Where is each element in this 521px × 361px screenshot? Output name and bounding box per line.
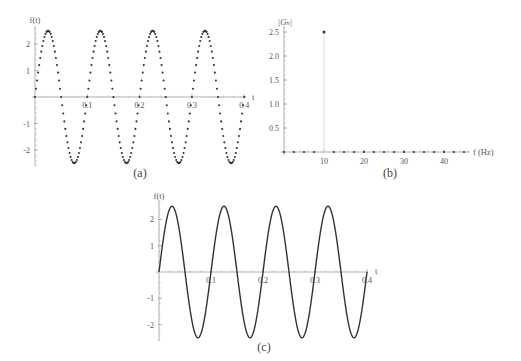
panel-caption: (b) <box>383 166 397 180</box>
y-tick-label: 1.0 <box>269 100 279 109</box>
sample-point <box>78 152 80 154</box>
sample-point <box>106 51 108 53</box>
sample-point <box>138 104 140 106</box>
sample-point <box>145 51 147 53</box>
sample-point <box>147 40 149 42</box>
sample-point <box>193 79 195 81</box>
sample-point <box>221 128 223 130</box>
sample-point <box>120 147 122 149</box>
sample-point <box>174 156 176 158</box>
sample-point <box>218 104 220 106</box>
sample-point <box>233 159 235 161</box>
sample-point <box>158 51 160 53</box>
spectrum-point <box>453 151 455 153</box>
spectrum-point <box>463 151 465 153</box>
sample-point <box>165 96 167 98</box>
sample-point <box>52 40 54 42</box>
sample-point <box>223 141 225 143</box>
sample-point <box>142 72 144 74</box>
y-tick-label: -2 <box>147 321 154 330</box>
sample-point <box>162 72 164 74</box>
sample-point <box>236 147 238 149</box>
sample-point <box>168 120 170 122</box>
sample-point <box>35 88 37 90</box>
sample-point <box>185 141 187 143</box>
sample-point <box>182 152 184 154</box>
sample-point <box>195 64 197 66</box>
sample-point <box>157 45 159 47</box>
peak-point <box>323 31 326 34</box>
sample-point <box>77 156 79 158</box>
y-axis-label: |Gₙ| <box>278 17 292 27</box>
sample-point <box>161 64 163 66</box>
sample-point <box>216 88 218 90</box>
sample-point <box>53 45 55 47</box>
sample-point <box>95 40 97 42</box>
sample-point <box>90 64 92 66</box>
y-tick-label: 1 <box>150 242 154 251</box>
spectrum-point <box>343 151 345 153</box>
sample-point <box>219 112 221 114</box>
y-tick-label: 1.5 <box>269 76 279 85</box>
y-tick-label: -1 <box>23 120 30 129</box>
sample-point <box>232 161 234 163</box>
sample-point <box>175 159 177 161</box>
sample-point <box>49 31 51 33</box>
sample-point <box>171 141 173 143</box>
y-tick-label: 2.0 <box>269 52 279 61</box>
sample-point <box>105 45 107 47</box>
x-tick-label: 10 <box>320 157 328 166</box>
y-tick-label: 2.5 <box>269 28 279 37</box>
sample-point <box>140 88 142 90</box>
sample-point <box>154 33 156 35</box>
sample-point <box>149 33 151 35</box>
sample-point <box>148 36 150 38</box>
sample-point <box>144 57 146 59</box>
sample-point <box>215 79 217 81</box>
sample-point <box>88 79 90 81</box>
sample-point <box>76 159 78 161</box>
sample-point <box>241 112 243 114</box>
sample-point <box>141 79 143 81</box>
sample-point <box>86 96 88 98</box>
y-axis-label: f(t) <box>30 15 41 25</box>
x-tick-label: 0.4 <box>239 101 249 110</box>
sample-point <box>111 88 113 90</box>
sample-point <box>201 33 203 35</box>
x-tick-label: 0.3 <box>187 101 197 110</box>
sample-point <box>127 161 129 163</box>
sample-point <box>41 45 43 47</box>
y-tick-label: 0.5 <box>269 124 279 133</box>
sample-point <box>60 96 62 98</box>
sample-point <box>129 156 131 158</box>
sample-point <box>63 120 65 122</box>
sample-point <box>205 31 207 33</box>
x-tick-label: 0.1 <box>82 101 92 110</box>
sample-point <box>96 36 98 38</box>
sample-point <box>116 120 118 122</box>
sample-point <box>65 135 67 137</box>
sample-point <box>167 112 169 114</box>
spectrum-point <box>313 151 315 153</box>
sample-point <box>131 147 133 149</box>
sample-point <box>61 104 63 106</box>
sample-point <box>130 152 132 154</box>
sample-point <box>214 72 216 74</box>
spectrum-point <box>333 151 335 153</box>
sample-point <box>169 128 171 130</box>
sample-point <box>51 36 53 38</box>
sample-point <box>89 72 91 74</box>
sample-point <box>179 161 181 163</box>
sample-point <box>59 88 61 90</box>
panel-caption: (a) <box>133 166 146 180</box>
sample-point <box>55 57 57 59</box>
y-axis-label: f(t) <box>154 191 165 201</box>
sample-point <box>186 135 188 137</box>
sample-point <box>199 40 201 42</box>
x-tick-label: 30 <box>400 157 408 166</box>
spectrum-point <box>303 151 305 153</box>
sample-point <box>101 31 103 33</box>
sample-point <box>225 152 227 154</box>
sample-point <box>40 51 42 53</box>
sample-point <box>36 79 38 81</box>
